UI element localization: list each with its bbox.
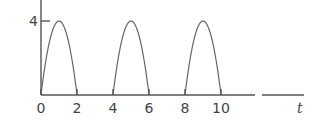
x-tick-label: 4 (109, 100, 118, 116)
pulse-curve-1 (41, 21, 77, 95)
marks (41, 21, 221, 95)
x-axis-label: t (297, 100, 303, 116)
chart: 02468104 t (0, 0, 319, 124)
pulse-curve-3 (185, 21, 221, 95)
x-tick-label: 10 (212, 100, 230, 116)
x-tick-label: 8 (181, 100, 190, 116)
ticks: 02468104 (29, 13, 230, 116)
x-tick-label: 6 (145, 100, 154, 116)
x-tick-label: 2 (73, 100, 82, 116)
y-tick-label: 4 (29, 13, 38, 29)
x-tick-label: 0 (37, 100, 46, 116)
pulse-curve-2 (113, 21, 149, 95)
